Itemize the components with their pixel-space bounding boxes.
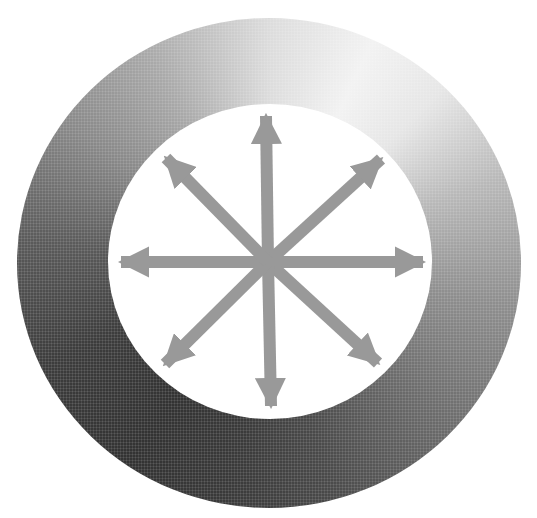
arrow-down-icon [268,262,271,406]
arrow-down-left-icon [165,262,268,364]
arrow-up-icon [266,116,268,262]
diagram-canvas [0,0,537,518]
arrow-up-left-icon [166,158,268,262]
arrow-up-right-icon [268,159,381,262]
radiating-arrows [0,0,537,518]
arrow-down-right-icon [268,262,378,363]
